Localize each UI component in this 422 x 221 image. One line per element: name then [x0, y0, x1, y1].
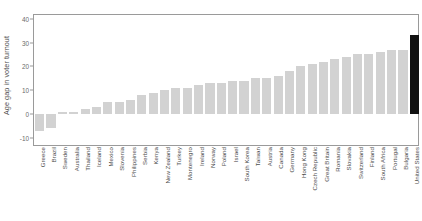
bar: [353, 54, 362, 114]
bar: [398, 50, 407, 114]
x-axis-label-text: Iceland: [95, 147, 102, 167]
x-axis-labels: GreeceBrazilSwedenAustraliaThailandIcela…: [33, 147, 419, 221]
x-axis-label-text: Kenya: [152, 147, 159, 165]
x-axis-label-text: Philippines: [130, 147, 137, 177]
bar: [364, 54, 373, 114]
bar: [126, 100, 135, 114]
x-axis-label-text: Poland: [220, 147, 227, 166]
x-axis-label-text: Ireland: [198, 147, 205, 166]
bar: [35, 114, 44, 131]
x-axis-label-text: Brazil: [50, 147, 57, 163]
x-axis-label-text: Taiwan: [254, 147, 261, 166]
bar: [149, 93, 158, 114]
bar: [228, 81, 237, 114]
bar: [183, 88, 192, 114]
x-axis-label-text: Great Britain: [323, 147, 330, 182]
x-axis-label-text: Greece: [39, 147, 46, 167]
x-axis-label-text: Sweden: [61, 147, 68, 169]
chart-figure: Age gap in voter turnout -10010203040 Gr…: [0, 0, 422, 221]
bar: [205, 83, 214, 114]
bar: [137, 95, 146, 114]
bar: [239, 81, 248, 114]
y-axis-tick-label: -10: [20, 134, 29, 141]
x-axis-label-text: Mexico: [107, 147, 114, 167]
bar: [92, 107, 101, 114]
bar: [171, 88, 180, 114]
bar: [262, 78, 271, 114]
y-axis-tick-label: 0: [25, 111, 29, 118]
x-axis-label-text: Canada: [277, 147, 284, 169]
bar: [251, 78, 260, 114]
bar: [410, 35, 419, 114]
y-axis-ticks: -10010203040: [14, 0, 33, 150]
x-axis-label-text: Serbia: [141, 147, 148, 165]
y-axis-tick-label: 30: [22, 39, 29, 46]
bar: [274, 76, 283, 114]
bar-series: [34, 14, 419, 145]
x-axis-label-text: Hong Kong: [300, 147, 307, 178]
x-axis-label-text: Portugal: [391, 147, 398, 170]
x-axis-label-text: Turkey: [175, 147, 182, 166]
bar: [160, 90, 169, 114]
bar: [319, 62, 328, 114]
x-axis-label-text: Norway: [209, 147, 216, 168]
bar: [308, 64, 317, 114]
bar: [217, 83, 226, 114]
x-axis-label-text: New Zealand: [164, 147, 171, 183]
bar: [330, 59, 339, 114]
y-axis-tick-label: 20: [22, 63, 29, 70]
x-axis-label-text: Australia: [73, 147, 80, 171]
x-axis-label-text: Israel: [232, 147, 239, 162]
bar: [81, 109, 90, 114]
x-axis-label-text: South Africa: [379, 147, 386, 180]
y-axis-title: Age gap in voter turnout: [0, 0, 14, 150]
bar: [58, 112, 67, 114]
bar: [194, 85, 203, 114]
x-axis-label-text: South Korea: [243, 147, 250, 181]
plot-panel: [33, 14, 419, 145]
x-axis-label-text: Bulgaria: [402, 147, 409, 170]
x-axis-label-text: Romania: [334, 147, 341, 172]
x-axis-label-text: United States: [413, 147, 420, 184]
bar: [46, 114, 55, 128]
y-axis-tick-label: 40: [22, 15, 29, 22]
bar: [103, 102, 112, 114]
bar: [387, 50, 396, 114]
x-axis-label-text: Slovakia: [345, 147, 352, 170]
bar: [69, 112, 78, 114]
x-axis-label-text: Germany: [288, 147, 295, 172]
x-axis-label-text: Slovenia: [118, 147, 125, 171]
y-axis-tick-label: 10: [22, 87, 29, 94]
x-axis-label-text: Austria: [266, 147, 273, 166]
x-axis-label-text: Finland: [368, 147, 375, 167]
bar: [342, 57, 351, 114]
x-axis-label-text: Montenegro: [186, 147, 193, 180]
y-axis-title-text: Age gap in voter turnout: [3, 35, 12, 114]
x-axis-label-text: Thailand: [84, 147, 91, 171]
x-axis-label-text: Switzerland: [357, 147, 364, 179]
x-axis-line: [33, 145, 419, 146]
bar: [285, 71, 294, 114]
bar: [115, 102, 124, 114]
bar: [376, 52, 385, 114]
bar: [296, 66, 305, 114]
x-axis-label: United States: [413, 147, 422, 154]
x-axis-label-text: Czech Republic: [311, 147, 318, 190]
